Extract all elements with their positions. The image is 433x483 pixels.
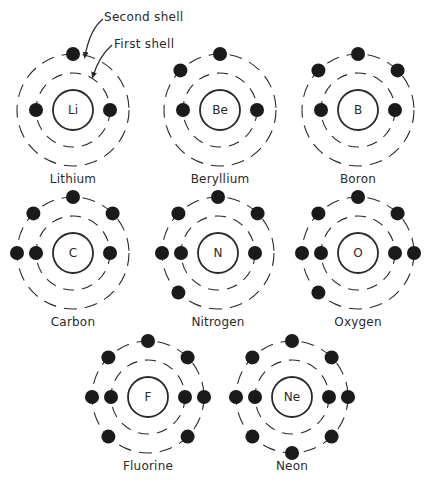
electron-outer [245, 350, 259, 364]
electron-inner [248, 246, 262, 260]
electron-shell-diagram: Second shell First shell LiLithiumBeBery… [0, 0, 433, 483]
electron-outer [295, 246, 309, 260]
element-symbol: O [353, 246, 362, 260]
electron-outer [155, 246, 169, 260]
element-symbol: F [145, 390, 152, 404]
second-shell-arrow [85, 19, 103, 56]
element-name-label: Beryllium [191, 172, 250, 186]
electron-inner [388, 103, 402, 117]
electron-outer [171, 206, 185, 220]
element-symbol: Li [68, 103, 78, 117]
electron-outer [101, 430, 115, 444]
element-name-label: Fluorine [123, 459, 173, 473]
element-symbol: Be [212, 103, 228, 117]
electron-outer [106, 206, 120, 220]
electron-outer [391, 63, 405, 77]
electron-outer [66, 190, 80, 204]
electron-outer [197, 390, 211, 404]
element-symbol: C [69, 246, 77, 260]
element-name-label: Boron [340, 172, 376, 186]
electron-inner [176, 103, 190, 117]
electron-inner [29, 103, 43, 117]
electron-outer [251, 206, 265, 220]
electron-outer [229, 390, 243, 404]
electron-outer [285, 446, 299, 460]
electron-outer [407, 246, 421, 260]
electron-outer [391, 206, 405, 220]
electron-outer [101, 350, 115, 364]
callout-second-shell: Second shell [104, 10, 184, 24]
element-name-label: Oxygen [334, 315, 381, 329]
electron-outer [85, 390, 99, 404]
element-name-label: Carbon [51, 315, 95, 329]
electron-outer [285, 334, 299, 348]
element-symbol: Ne [284, 390, 300, 404]
electron-outer [141, 334, 155, 348]
electron-outer [245, 430, 259, 444]
electron-outer [351, 190, 365, 204]
electron-outer [325, 350, 339, 364]
electron-outer [66, 47, 80, 61]
electron-outer [311, 206, 325, 220]
electron-inner [104, 390, 118, 404]
electron-inner [178, 390, 192, 404]
electron-inner [103, 103, 117, 117]
electron-inner [250, 103, 264, 117]
electron-outer [173, 63, 187, 77]
element-name-label: Lithium [50, 172, 96, 186]
electron-outer [311, 286, 325, 300]
electron-inner [29, 246, 43, 260]
electron-inner [174, 246, 188, 260]
electron-inner [388, 246, 402, 260]
electron-inner [103, 246, 117, 260]
callout-first-shell: First shell [114, 37, 174, 51]
electron-outer [325, 430, 339, 444]
electron-outer [10, 246, 24, 260]
element-symbol: N [214, 246, 223, 260]
electron-outer [341, 390, 355, 404]
electron-outer [351, 47, 365, 61]
element-name-label: Nitrogen [191, 315, 244, 329]
electron-outer [213, 47, 227, 61]
electron-outer [211, 190, 225, 204]
element-symbol: B [354, 103, 362, 117]
electron-inner [314, 246, 328, 260]
electron-inner [322, 390, 336, 404]
electron-inner [314, 103, 328, 117]
electron-inner [248, 390, 262, 404]
electron-outer [311, 63, 325, 77]
electron-outer [181, 430, 195, 444]
electron-outer [171, 286, 185, 300]
element-name-label: Neon [276, 459, 308, 473]
electron-outer [181, 350, 195, 364]
first-shell-arrow [93, 45, 112, 76]
electron-outer [26, 206, 40, 220]
diagram-canvas [0, 0, 433, 483]
